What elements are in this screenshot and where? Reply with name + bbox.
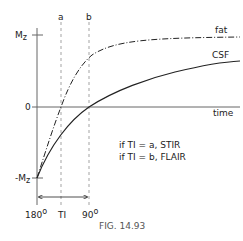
y-axis-bottom-label: -Mz — [15, 173, 30, 185]
ti-end-label: 90o — [82, 207, 98, 220]
inversion-recovery-figure: Mz 0 -Mz a b fat CSF time 180o TI 90o if… — [0, 0, 243, 241]
ti-middle-label: TI — [57, 210, 66, 220]
note-stir: if TI = a, STIR — [119, 140, 180, 150]
y-axis-zero-label: 0 — [25, 102, 31, 112]
y-axis-top-label: Mz — [15, 30, 27, 42]
marker-label-b: b — [86, 12, 92, 22]
ti-start-label: 180o — [25, 207, 47, 220]
time-axis-label: time — [213, 108, 234, 118]
figure-caption: FIG. 14.93 — [99, 221, 145, 231]
csf-label: CSF — [212, 50, 229, 60]
marker-label-a: a — [58, 12, 64, 22]
note-flair: if TI = b, FLAIR — [119, 152, 186, 162]
fat-label: fat — [215, 25, 228, 35]
diagram-canvas: Mz 0 -Mz a b fat CSF time 180o TI 90o if… — [0, 0, 243, 241]
